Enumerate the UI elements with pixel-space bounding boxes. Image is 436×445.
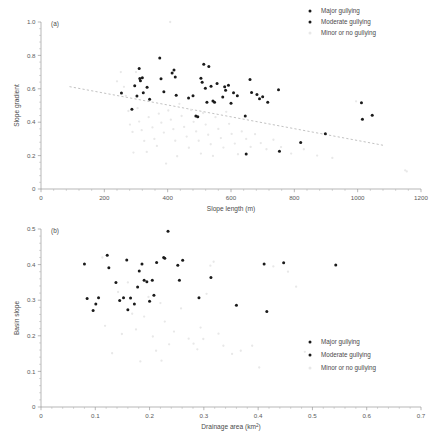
data-point-major-gullying <box>224 89 227 92</box>
data-point-major-gullying <box>299 141 302 144</box>
data-point-minor-or-no-gullying <box>117 291 119 293</box>
data-point-minor-or-no-gullying <box>186 135 188 137</box>
data-point-minor-or-no-gullying <box>129 123 131 125</box>
data-point-minor-or-no-gullying <box>174 140 176 142</box>
data-point-minor-or-no-gullying <box>222 146 224 148</box>
x-tick-label: 0 <box>39 194 43 201</box>
x-tick-label: 0 <box>39 412 43 419</box>
data-point-minor-or-no-gullying <box>406 170 408 172</box>
data-point-major-gullying <box>235 304 238 307</box>
data-point-minor-or-no-gullying <box>148 116 150 118</box>
data-point-minor-or-no-gullying <box>125 95 127 97</box>
data-point-minor-or-no-gullying <box>258 366 260 368</box>
data-point-minor-or-no-gullying <box>152 335 154 337</box>
data-point-minor-or-no-gullying <box>217 333 219 335</box>
data-point-major-gullying <box>138 67 141 70</box>
legend-label-0: Major gullying <box>321 7 360 15</box>
data-point-major-gullying <box>221 95 224 98</box>
y-tick-label: 0.2 <box>27 152 36 159</box>
data-point-minor-or-no-gullying <box>138 120 140 122</box>
data-point-major-gullying <box>178 279 181 282</box>
data-point-major-gullying <box>250 91 253 94</box>
data-point-major-gullying <box>126 308 129 311</box>
data-point-minor-or-no-gullying <box>101 256 103 258</box>
data-point-minor-or-no-gullying <box>180 115 182 117</box>
y-axis-title: Basin slope <box>13 301 21 335</box>
data-point-minor-or-no-gullying <box>222 345 224 347</box>
data-point-minor-or-no-gullying <box>230 133 232 135</box>
legend-label-2: Minor or no gullying <box>321 29 376 37</box>
data-point-major-gullying <box>230 102 233 105</box>
data-point-major-gullying <box>175 94 178 97</box>
y-tick-label: 0.4 <box>27 261 36 268</box>
data-point-major-gullying <box>216 82 219 85</box>
data-point-minor-or-no-gullying <box>169 21 171 23</box>
data-point-minor-or-no-gullying <box>127 110 129 112</box>
x-axis-title: Slope length (m) <box>207 205 255 213</box>
x-tick-label: 1200 <box>414 194 428 201</box>
data-point-major-gullying <box>282 261 285 264</box>
data-point-minor-or-no-gullying <box>355 100 357 102</box>
x-tick-label: 200 <box>99 194 110 201</box>
data-point-major-gullying <box>245 152 248 155</box>
paren-close: ) <box>258 423 260 431</box>
data-point-minor-or-no-gullying <box>167 109 169 111</box>
data-point-minor-or-no-gullying <box>158 113 160 115</box>
data-point-major-gullying <box>83 262 86 265</box>
data-point-minor-or-no-gullying <box>272 265 274 267</box>
data-point-minor-or-no-gullying <box>231 353 233 355</box>
data-point-minor-or-no-gullying <box>165 162 167 164</box>
data-point-minor-or-no-gullying <box>304 351 306 353</box>
panel-tag: (a) <box>51 20 59 28</box>
data-point-major-gullying <box>197 296 200 299</box>
data-point-major-gullying <box>120 91 123 94</box>
data-point-major-gullying <box>140 262 143 265</box>
data-point-minor-or-no-gullying <box>135 71 137 73</box>
data-point-minor-or-no-gullying <box>199 326 201 328</box>
x-tick-label: 0.1 <box>91 412 100 419</box>
data-point-minor-or-no-gullying <box>209 265 211 267</box>
data-point-major-gullying <box>244 115 247 118</box>
data-point-minor-or-no-gullying <box>188 147 190 149</box>
data-point-minor-or-no-gullying <box>205 123 207 125</box>
data-point-major-gullying <box>263 262 266 265</box>
y-axis-title: Slope gradient <box>13 84 21 127</box>
data-point-minor-or-no-gullying <box>131 313 133 315</box>
data-point-minor-or-no-gullying <box>220 137 222 139</box>
y-tick-label: 0.4 <box>27 118 36 125</box>
data-point-minor-or-no-gullying <box>135 328 137 330</box>
legend-label-1: Moderate gullying <box>321 351 371 359</box>
data-point-minor-or-no-gullying <box>143 315 145 317</box>
data-point-minor-or-no-gullying <box>131 131 133 133</box>
data-point-major-gullying <box>192 94 195 97</box>
data-point-minor-or-no-gullying <box>225 111 227 113</box>
y-tick-label: 0.3 <box>27 296 36 303</box>
data-point-minor-or-no-gullying <box>237 153 239 155</box>
y-tick-label: 0.1 <box>27 368 36 375</box>
data-point-minor-or-no-gullying <box>240 350 242 352</box>
data-point-minor-or-no-gullying <box>303 148 305 150</box>
data-point-minor-or-no-gullying <box>207 134 209 136</box>
data-point-minor-or-no-gullying <box>217 128 219 130</box>
y-tick-label: 0 <box>32 403 36 410</box>
panel-b-basin-slope: 00.10.20.30.40.50.60.700.10.20.30.40.5(b… <box>0 222 436 445</box>
data-point-major-gullying <box>152 294 155 297</box>
data-point-minor-or-no-gullying <box>120 71 122 73</box>
data-point-major-gullying <box>158 56 161 59</box>
data-point-major-gullying <box>173 69 176 72</box>
data-point-minor-or-no-gullying <box>254 133 256 135</box>
data-point-minor-or-no-gullying <box>295 286 297 288</box>
data-point-minor-or-no-gullying <box>202 338 204 340</box>
data-point-major-gullying <box>148 98 151 101</box>
data-point-minor-or-no-gullying <box>280 146 282 148</box>
data-point-major-gullying <box>201 81 204 84</box>
data-point-minor-or-no-gullying <box>160 122 162 124</box>
data-point-major-gullying <box>171 71 174 74</box>
data-point-minor-or-no-gullying <box>287 271 289 273</box>
data-point-minor-or-no-gullying <box>202 112 204 114</box>
data-point-major-gullying <box>223 85 226 88</box>
data-point-major-gullying <box>125 258 128 261</box>
x-tick-label: 800 <box>289 194 300 201</box>
x-tick-label: 1000 <box>351 194 365 201</box>
data-point-minor-or-no-gullying <box>123 86 125 88</box>
